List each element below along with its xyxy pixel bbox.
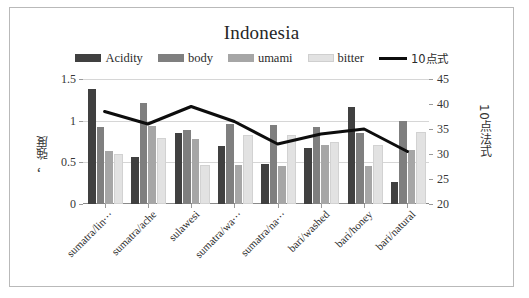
- bar-body: [140, 103, 148, 204]
- y-axis-right-tick-label: 20: [437, 198, 449, 210]
- legend-item-bitter: bitter: [308, 51, 364, 66]
- bar-acidity: [218, 146, 226, 204]
- chart-legend: Acidity body umami bitter 10点式: [10, 50, 513, 66]
- bar-body: [270, 125, 278, 204]
- bar-umami: [235, 165, 243, 204]
- y-axis-label-left: ，強度: [34, 136, 51, 172]
- bar-group: [83, 79, 126, 204]
- bar-bitter: [200, 165, 210, 204]
- bar-bitter: [114, 154, 124, 204]
- bar-group: [126, 79, 169, 204]
- bar-group: [343, 79, 386, 204]
- y-axis-right-tickmark: [429, 129, 433, 130]
- y-axis-right-tickmark: [429, 79, 433, 80]
- bar-bitter: [330, 142, 340, 204]
- bar-acidity: [175, 133, 183, 204]
- bar-umami: [192, 139, 200, 204]
- bar-umami: [408, 150, 416, 204]
- legend-swatch-bitter: [308, 54, 334, 62]
- bar-umami: [321, 145, 329, 204]
- bar-bitter: [287, 135, 297, 204]
- bar-bitter: [157, 138, 167, 204]
- chart-title: Indonesia: [10, 22, 513, 44]
- plot-area: 00.511.5 202530354045: [83, 79, 429, 204]
- bar-group: [256, 79, 299, 204]
- y-axis-right-tick-label: 40: [437, 98, 449, 110]
- bar-body: [97, 127, 105, 205]
- bar-body: [183, 130, 191, 204]
- bar-acidity: [261, 164, 269, 204]
- y-axis-label-right: 10点法式: [476, 104, 493, 158]
- bar-group: [170, 79, 213, 204]
- y-axis-right-tick-label: 30: [437, 148, 449, 160]
- bar-body: [226, 124, 234, 204]
- legend-label-ten-point-scale: 10点式: [411, 50, 448, 66]
- bar-umami: [148, 126, 156, 204]
- y-axis-left-tick-label: 1: [70, 115, 76, 127]
- legend-swatch-umami: [228, 54, 254, 62]
- bar-body: [356, 133, 364, 204]
- bar-umami: [278, 166, 286, 204]
- bar-acidity: [88, 89, 96, 204]
- bar-group: [299, 79, 342, 204]
- bar-acidity: [391, 182, 399, 204]
- legend-item-acidity: Acidity: [75, 51, 143, 66]
- bar-acidity: [348, 107, 356, 205]
- legend-swatch-body: [158, 54, 184, 62]
- legend-label-bitter: bitter: [338, 51, 364, 66]
- legend-item-umami: umami: [228, 51, 293, 66]
- legend-label-body: body: [188, 51, 213, 66]
- y-axis-right-tick-label: 45: [437, 73, 449, 85]
- y-axis-right-tickmark: [429, 154, 433, 155]
- y-axis-right-tick-label: 25: [437, 173, 449, 185]
- x-axis-category-labels: sumatra/lin⋯sumatra/achesulawesisumatra/…: [83, 204, 429, 284]
- y-axis-left-tick-label: 0.5: [61, 156, 76, 168]
- x-axis-category-label: sumatra/lin⋯: [8, 208, 116, 298]
- y-axis-right-tickmark: [429, 204, 433, 205]
- y-axis-right-tickmark: [429, 179, 433, 180]
- bar-group: [386, 79, 429, 204]
- bar-bitter: [416, 132, 426, 204]
- bar-acidity: [304, 148, 312, 204]
- y-axis-left-tick-label: 1.5: [61, 73, 76, 85]
- y-axis-right-tick-label: 35: [437, 123, 449, 135]
- bar-umami: [365, 166, 373, 204]
- bar-bitter: [373, 145, 383, 205]
- bar-body: [399, 121, 407, 204]
- legend-label-umami: umami: [258, 51, 293, 66]
- legend-label-acidity: Acidity: [105, 51, 143, 66]
- bar-umami: [105, 151, 113, 204]
- bar-group: [213, 79, 256, 204]
- bar-bitter: [243, 135, 253, 205]
- legend-swatch-acidity: [75, 54, 101, 62]
- chart-frame: Indonesia Acidity body umami bitter 10点式…: [9, 7, 514, 287]
- bar-body: [313, 127, 321, 205]
- legend-item-ten-point-scale: 10点式: [379, 50, 448, 66]
- legend-item-body: body: [158, 51, 213, 66]
- legend-line-ten-point-scale: [379, 57, 407, 60]
- bar-acidity: [131, 157, 139, 205]
- y-axis-left-tick-label: 0: [70, 198, 76, 210]
- y-axis-right-tickmark: [429, 104, 433, 105]
